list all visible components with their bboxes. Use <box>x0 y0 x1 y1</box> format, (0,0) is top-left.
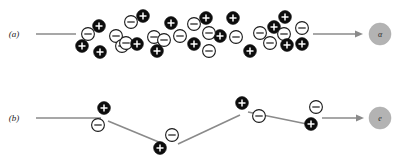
positive-ion <box>236 97 249 110</box>
panel-a-ion-cloud <box>76 10 309 59</box>
positive-ion <box>200 12 213 25</box>
negative-ion <box>174 30 187 43</box>
positive-ion <box>131 38 144 51</box>
panel-b-ion-pairs <box>92 97 323 155</box>
panel-a: (a) <box>9 10 391 59</box>
positive-ion <box>94 46 107 59</box>
negative-ion <box>310 101 323 114</box>
panel-a-exit-arrow <box>313 31 363 38</box>
negative-ion <box>296 22 309 35</box>
positive-ion <box>137 10 150 23</box>
negative-ion <box>230 31 243 44</box>
positive-ion <box>244 45 257 58</box>
negative-ion <box>92 119 105 132</box>
electron-target: e <box>369 107 391 129</box>
alpha-particle-target: α <box>369 23 391 45</box>
positive-ion <box>296 38 309 51</box>
positive-ion <box>154 142 167 155</box>
positive-ion <box>279 11 292 24</box>
track-segment <box>108 121 166 145</box>
negative-ion <box>203 45 216 58</box>
positive-ion <box>227 12 240 25</box>
positive-ion <box>305 118 318 131</box>
track-segment <box>178 115 240 144</box>
negative-ion <box>158 34 171 47</box>
positive-ion <box>188 38 201 51</box>
negative-ion <box>188 18 201 31</box>
positive-ion <box>93 20 106 33</box>
positive-ion <box>165 17 178 30</box>
positive-ion <box>151 45 164 58</box>
negative-ion <box>203 27 216 40</box>
positive-ion <box>76 40 89 53</box>
panel-b: (b) e <box>9 97 391 155</box>
positive-ion <box>98 102 111 115</box>
negative-ion <box>82 28 95 41</box>
negative-ion <box>254 27 267 40</box>
positive-ion <box>281 39 294 52</box>
negative-ion <box>166 129 179 142</box>
particle-track-figure: (a) <box>0 0 403 162</box>
panel-b-exit-arrow <box>322 115 364 122</box>
panel-b-label: (b) <box>9 113 20 123</box>
negative-ion <box>125 16 138 29</box>
electron-label: e <box>378 114 382 123</box>
negative-ion <box>264 37 277 50</box>
negative-ion <box>253 110 266 123</box>
panel-a-label: (a) <box>9 29 20 39</box>
